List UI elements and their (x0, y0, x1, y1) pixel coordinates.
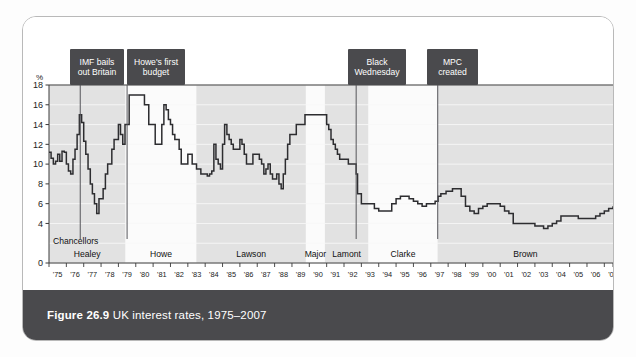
annotation-callout: Black Wednesday (348, 49, 406, 85)
x-tick-label: '98 (452, 270, 462, 279)
figure-card: 18161412108640%'75'76'77'78'79'80'81'82'… (22, 16, 614, 341)
x-tick-label: '87 (261, 270, 271, 279)
x-tick-label: '06 (591, 270, 601, 279)
x-tick-label: '00 (487, 270, 497, 279)
y-tick-label: 16 (33, 100, 43, 110)
x-tick-label: '95 (400, 270, 410, 279)
x-tick-label: '76 (70, 270, 80, 279)
figure-number: Figure 26.9 (47, 309, 109, 321)
y-tick-label: 6 (38, 199, 43, 209)
x-tick-label: '82 (174, 270, 184, 279)
x-tick-label: '91 (331, 270, 341, 279)
chancellor-label-howe: Howe (150, 249, 172, 259)
x-tick-label: '04 (556, 270, 566, 279)
x-tick-label: '75 (53, 270, 63, 279)
x-tick-label: '80 (140, 270, 150, 279)
chancellor-label-lamont: Lamont (332, 249, 361, 259)
figure-caption-text: UK interest rates, 1975–2007 (113, 309, 267, 321)
figure-caption-bar: Figure 26.9 UK interest rates, 1975–2007 (23, 290, 614, 340)
x-tick-label: '90 (313, 270, 323, 279)
chart-area: 18161412108640%'75'76'77'78'79'80'81'82'… (23, 17, 614, 285)
x-tick-label: '86 (244, 270, 254, 279)
y-tick-label: 4 (38, 219, 43, 229)
x-tick-label: '93 (365, 270, 375, 279)
x-tick-label: '99 (469, 270, 479, 279)
chancellor-band-howe (125, 85, 196, 263)
x-tick-label: '88 (278, 270, 288, 279)
y-axis-unit-label: % (36, 73, 43, 82)
y-tick-label: 0 (38, 258, 43, 268)
x-tick-label: '77 (88, 270, 98, 279)
x-tick-label: '02 (521, 270, 531, 279)
x-tick-label: '85 (226, 270, 236, 279)
y-tick-label: 8 (38, 179, 43, 189)
annotation-callout: MPC created (427, 49, 478, 85)
x-tick-label: '96 (417, 270, 427, 279)
annotation-callout-text: MPC created (427, 49, 478, 85)
figure-caption: Figure 26.9 UK interest rates, 1975–2007 (23, 309, 267, 321)
y-tick-label: 12 (33, 140, 43, 150)
annotation-callout: Howe's first budget (127, 49, 185, 85)
chancellor-label-clarke: Clarke (391, 249, 416, 259)
interest-rate-line-chart: 18161412108640%'75'76'77'78'79'80'81'82'… (23, 17, 614, 285)
chancellor-band-major (306, 85, 325, 263)
x-tick-label: '07 (608, 270, 614, 279)
annotation-callout: IMF bails out Britain (70, 49, 124, 85)
figure-root: 18161412108640%'75'76'77'78'79'80'81'82'… (0, 0, 636, 357)
x-tick-label: '81 (157, 270, 167, 279)
x-tick-label: '92 (348, 270, 358, 279)
x-tick-label: '05 (573, 270, 583, 279)
x-tick-label: '78 (105, 270, 115, 279)
y-tick-label: 10 (33, 159, 43, 169)
chancellor-label-healey: Healey (74, 249, 101, 259)
chancellor-label-major: Major (305, 249, 327, 259)
x-tick-label: '94 (383, 270, 393, 279)
chancellor-band-brown (438, 85, 613, 263)
chancellor-label-lawson: Lawson (236, 249, 266, 259)
x-tick-label: '97 (435, 270, 445, 279)
annotation-callout-text: Black Wednesday (348, 49, 406, 85)
y-tick-label: 14 (33, 120, 43, 130)
annotation-callout-text: Howe's first budget (127, 49, 185, 85)
x-tick-label: '84 (209, 270, 219, 279)
chancellors-axis-title: Chancellors (53, 236, 98, 246)
chancellor-band-clarke (368, 85, 437, 263)
chancellor-band-lawson (197, 85, 306, 263)
chancellor-label-brown: Brown (513, 249, 538, 259)
annotation-callout-text: IMF bails out Britain (70, 49, 124, 85)
x-tick-label: '79 (122, 270, 132, 279)
x-tick-label: '83 (192, 270, 202, 279)
x-tick-label: '03 (539, 270, 549, 279)
x-tick-label: '01 (504, 270, 514, 279)
chancellor-band-lamont (325, 85, 368, 263)
x-tick-label: '89 (296, 270, 306, 279)
